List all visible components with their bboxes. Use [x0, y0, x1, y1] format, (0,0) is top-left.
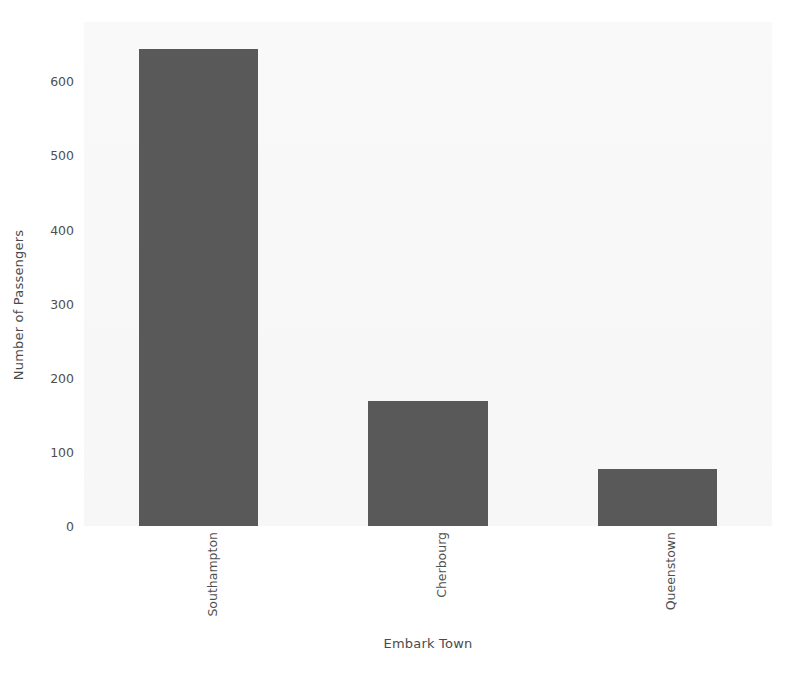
x-axis-label: Embark Town [84, 636, 772, 651]
x-axis-tick-labels: SouthamptonCherbourgQueenstown [84, 526, 772, 636]
y-tick-label: 600 [10, 74, 74, 89]
y-tick-label: 500 [10, 148, 74, 163]
y-tick-label: 300 [10, 296, 74, 311]
y-tick-label: 400 [10, 222, 74, 237]
bar [139, 49, 258, 526]
bar-series [84, 22, 772, 526]
y-tick-label: 200 [10, 370, 74, 385]
y-tick-label: 100 [10, 444, 74, 459]
y-axis-tick-labels: 0100200300400500600 [10, 0, 74, 679]
bar [598, 469, 717, 526]
bar [368, 401, 487, 526]
bar-chart-figure: Number of Passengers 0100200300400500600… [0, 0, 788, 679]
x-tick-label: Southampton [205, 532, 220, 617]
y-tick-label: 0 [10, 519, 74, 534]
plot-area [84, 22, 772, 526]
x-tick-label: Queenstown [663, 532, 678, 610]
x-tick-label: Cherbourg [434, 532, 449, 598]
